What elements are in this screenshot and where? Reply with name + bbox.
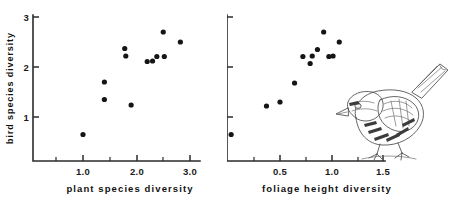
data-point (154, 54, 159, 59)
datapoints-right (229, 29, 342, 137)
data-point (122, 46, 127, 51)
data-point (321, 29, 326, 34)
y-ticklabel-2-left: 2 (24, 62, 29, 73)
data-point (315, 47, 320, 52)
y-ticklabel-1-left: 1 (24, 112, 30, 123)
data-point (102, 79, 107, 84)
data-point (162, 54, 167, 59)
data-point (337, 39, 342, 44)
y-ticklabel-3-left: 3 (24, 12, 29, 23)
data-point (292, 80, 297, 85)
data-point (277, 99, 282, 104)
data-point (330, 53, 335, 58)
data-point (150, 58, 155, 63)
x-axis-title-right: foliage height diversity (262, 183, 392, 194)
y-ticks-right (227, 17, 233, 117)
data-point (300, 54, 305, 59)
x-axis-title-left: plant species diversity (66, 183, 193, 194)
plot-left-svg: 3 2 1 1.0 2.0 3.0 plant species diversit… (0, 0, 227, 210)
data-point (310, 53, 315, 58)
axis-lines-left (33, 15, 200, 161)
data-point (229, 132, 234, 137)
data-point (308, 61, 313, 66)
data-point (80, 132, 85, 137)
y-ticks-left (33, 17, 39, 117)
data-point (178, 39, 183, 44)
x-ticklabel-15-right: 1.5 (376, 166, 390, 177)
x-ticklabel-1-left: 1.0 (76, 166, 90, 177)
x-ticklabel-05-right: 0.5 (273, 166, 287, 177)
x-ticklabel-10-right: 1.0 (325, 166, 339, 177)
data-point (123, 53, 128, 58)
x-ticks-right (254, 155, 383, 161)
data-point (264, 103, 269, 108)
data-point (129, 102, 134, 107)
scatter-panel-left: 3 2 1 1.0 2.0 3.0 plant species diversit… (0, 0, 227, 210)
x-ticklabel-2-left: 2.0 (130, 166, 144, 177)
axis-lines-right (227, 15, 385, 161)
x-ticklabel-3-left: 3.0 (183, 166, 197, 177)
plot-right-svg: 3 2 1 0.5 1.0 1.5 foliage height diversi… (227, 0, 454, 210)
y-axis-title-left: bird species diversity (5, 32, 15, 144)
data-point (161, 29, 166, 34)
datapoints-left (80, 29, 183, 137)
figure-container: 3 2 1 1.0 2.0 3.0 plant species diversit… (0, 0, 454, 210)
data-point (102, 97, 107, 102)
data-point (145, 59, 150, 64)
scatter-panel-right: 3 2 1 0.5 1.0 1.5 foliage height diversi… (227, 0, 454, 210)
x-ticks-left (56, 155, 190, 161)
